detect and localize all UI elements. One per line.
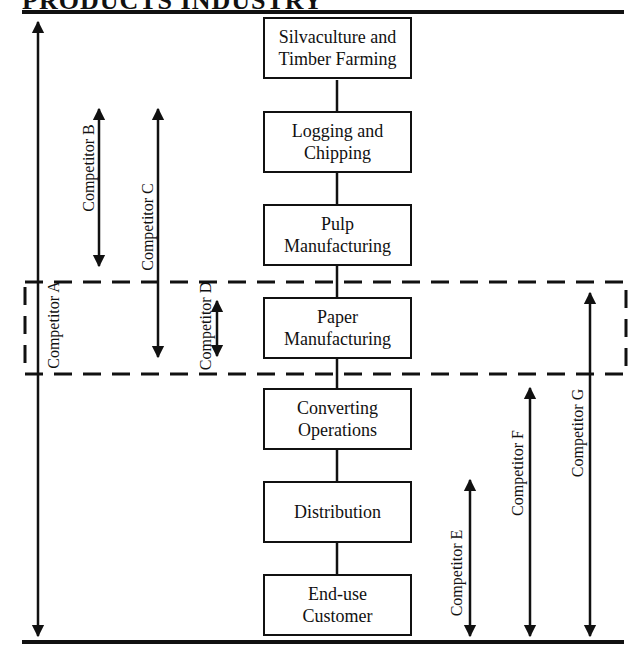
stage-label: Distribution	[294, 501, 381, 523]
stage-converting: Converting Operations	[263, 388, 412, 450]
competitor-f-label: Competitor F	[510, 430, 526, 516]
stage-label: Silvaculture and Timber Farming	[279, 26, 397, 70]
stage-label: Logging and Chipping	[292, 120, 384, 164]
stage-label: Converting Operations	[297, 397, 378, 441]
stage-label: Pulp Manufacturing	[284, 213, 391, 257]
competitor-c-label: Competitor C	[140, 183, 156, 271]
competitor-d-label: Competitor D	[198, 282, 214, 370]
stage-label: Paper Manufacturing	[284, 306, 391, 350]
stage-pulp: Pulp Manufacturing	[263, 204, 412, 266]
stage-label: End-use Customer	[303, 583, 373, 627]
stage-distribution: Distribution	[263, 481, 412, 543]
stage-end-use: End-use Customer	[263, 574, 412, 636]
stage-paper: Paper Manufacturing	[263, 297, 412, 359]
stage-silvaculture: Silvaculture and Timber Farming	[263, 17, 412, 79]
competitor-g-label: Competitor G	[570, 389, 586, 477]
stage-logging: Logging and Chipping	[263, 111, 412, 173]
competitor-a-label: Competitor A	[46, 281, 62, 369]
competitor-e-label: Competitor E	[449, 530, 465, 617]
competitor-b-label: Competitor B	[81, 124, 97, 212]
